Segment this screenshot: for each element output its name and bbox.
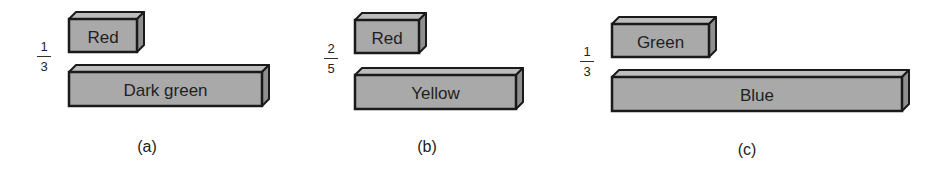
- panel-caption: (c): [738, 141, 757, 159]
- short-rod: Red: [355, 13, 426, 53]
- rod-label: Green: [637, 33, 684, 50]
- panel-caption: (a): [137, 138, 157, 156]
- fraction-label: 13: [37, 40, 51, 73]
- short-rod: Red: [69, 12, 144, 52]
- panel-caption: (b): [417, 138, 437, 156]
- long-rod: Yellow: [355, 68, 523, 109]
- rod-label: Red: [371, 29, 402, 46]
- fraction-label: 13: [580, 45, 594, 78]
- fraction-numerator: 2: [324, 42, 338, 55]
- long-rod: Dark green: [69, 65, 269, 106]
- rod-label: Yellow: [411, 85, 460, 102]
- fraction-bar: [580, 61, 594, 62]
- fraction-numerator: 1: [37, 40, 51, 53]
- fraction-bar: [37, 56, 51, 57]
- long-rod: Blue: [612, 70, 909, 111]
- fraction-denominator: 3: [580, 65, 594, 78]
- fraction-label: 25: [324, 42, 338, 75]
- rod-label: Blue: [740, 87, 774, 104]
- short-rod: Green: [612, 17, 716, 57]
- fraction-denominator: 3: [37, 60, 51, 73]
- fraction-numerator: 1: [580, 45, 594, 58]
- rod-label: Dark green: [123, 82, 207, 99]
- rod-label: Red: [87, 28, 118, 45]
- fraction-bar: [324, 58, 338, 59]
- fraction-denominator: 5: [324, 62, 338, 75]
